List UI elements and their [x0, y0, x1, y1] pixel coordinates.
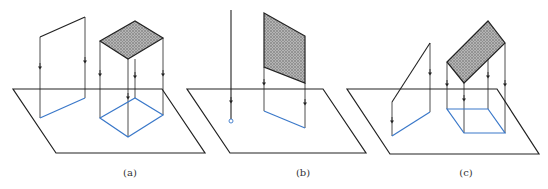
shaded-plane-c — [447, 21, 505, 83]
panel-b — [187, 10, 366, 153]
projection-diagram — [0, 0, 548, 189]
caption-a: (a) — [110, 167, 150, 178]
plane-projection-c — [447, 109, 505, 133]
ground-plane-a — [13, 89, 205, 153]
point-projection-b — [229, 119, 233, 123]
caption-c: (c) — [446, 167, 486, 178]
plane-projection-a — [100, 98, 163, 137]
shaded-plane-a — [100, 21, 163, 59]
caption-b: (b) — [283, 167, 323, 178]
line-projection-a — [40, 98, 85, 118]
ground-plane-b — [187, 89, 366, 153]
ground-plane-c — [347, 89, 539, 154]
shaded-plane-b — [264, 13, 305, 83]
line-projection-c — [392, 112, 430, 136]
plane-projection-b — [264, 111, 305, 128]
panel-c — [347, 21, 539, 154]
panel-a — [13, 17, 205, 153]
